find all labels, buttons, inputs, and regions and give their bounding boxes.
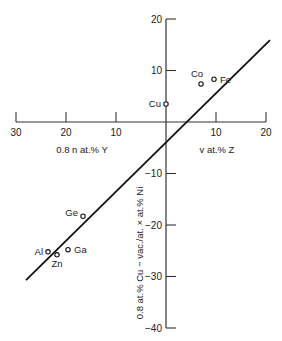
x-tick-label: 30 [10,127,22,138]
data-point-ga [66,248,70,252]
x-axis-label-left: 0.8 n at.% Y [56,144,108,155]
point-label-ga: Ga [74,244,87,255]
y-tick-label: −40 [145,323,162,334]
point-label-fe: Fe [220,74,231,85]
y-tick-label: 10 [151,65,163,76]
x-tick-label: 20 [60,127,72,138]
x-axis-label-right: v at.% Z [200,144,235,155]
data-point-al [46,250,50,254]
point-label-ge: Ge [65,207,78,218]
regression-line [26,40,270,280]
data-point-fe [212,77,216,81]
point-label-cu: Cu [149,98,161,109]
data-points: CuCoFeGeAlZnGa [35,68,232,269]
fit-line [26,40,270,280]
data-point-cu [164,102,168,106]
data-point-zn [55,253,59,257]
scatter-chart: 30201010202010−10−20−30−40 CuCoFeGeAlZnG… [0,0,282,341]
data-point-co [199,82,203,86]
y-tick-label: −30 [145,271,162,282]
point-label-zn: Zn [51,258,62,269]
point-label-co: Co [191,68,203,79]
y-axis-label: 0.8 at.% Cu − vac./at. × at.% Ni [134,187,145,320]
y-tick-label: 20 [151,14,163,25]
x-tick-label: 10 [210,127,222,138]
x-tick-label: 10 [110,127,122,138]
y-tick-label: −20 [145,220,162,231]
y-tick-label: −10 [145,168,162,179]
x-tick-label: 20 [260,127,272,138]
data-point-ge [81,214,85,218]
point-label-al: Al [35,246,43,257]
